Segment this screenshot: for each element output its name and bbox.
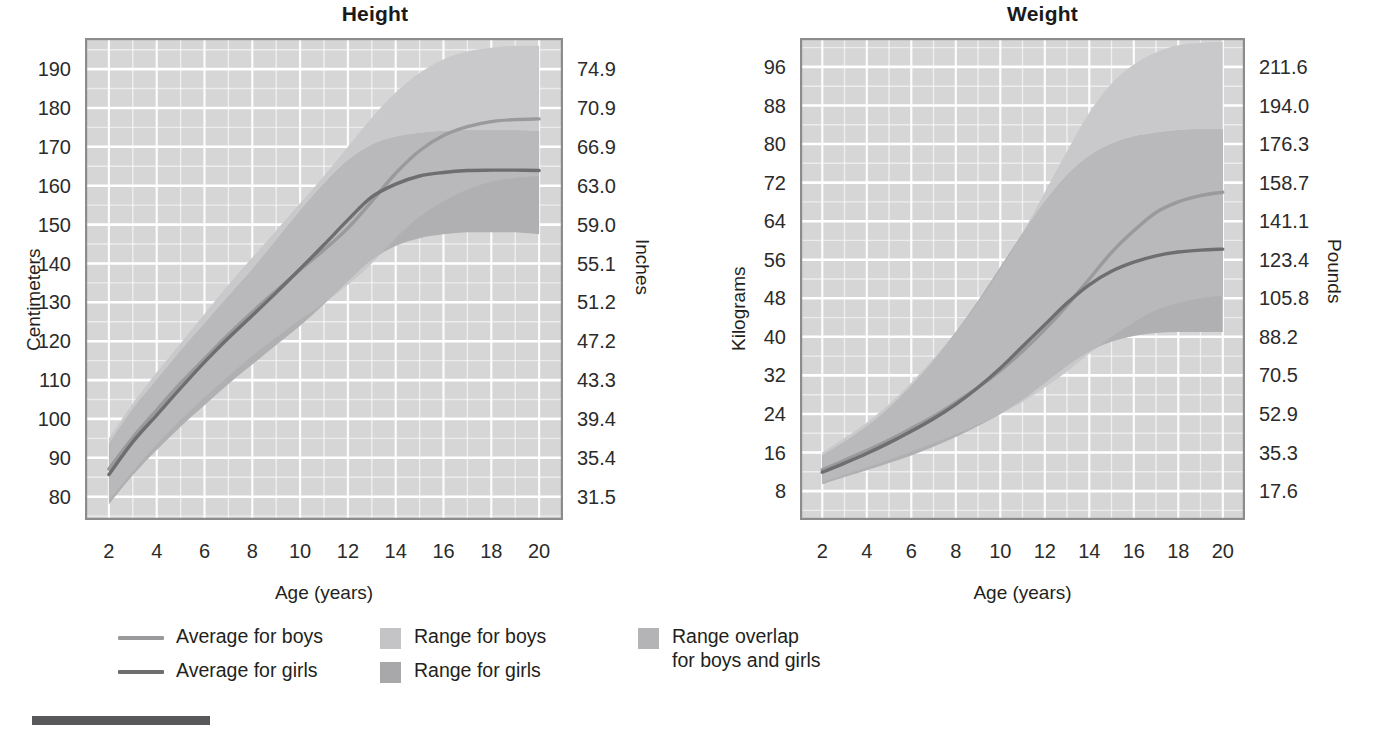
y-tick-label-right: 105.8	[1259, 287, 1309, 309]
y-tick-label-left: 170	[38, 136, 71, 158]
y-tick-label-right: 74.9	[577, 58, 616, 80]
y-tick-label-left: 88	[764, 95, 786, 117]
y-tick-label-right: 55.1	[577, 253, 616, 275]
y-tick-label-right: 31.5	[577, 486, 616, 508]
y-tick-label-left: 110	[39, 369, 71, 391]
x-tick-label: 18	[1167, 540, 1189, 562]
x-tick-label: 10	[989, 540, 1011, 562]
x-tick-label: 8	[950, 540, 961, 562]
legend-color-swatch-range-boys	[380, 628, 401, 649]
y-tick-label-right: 66.9	[577, 136, 616, 158]
x-tick-label: 12	[337, 540, 359, 562]
x-tick-label: 2	[817, 540, 828, 562]
legend-item-range-boys: Range for boys	[380, 624, 546, 658]
y-tick-label-right: 59.0	[577, 214, 616, 236]
x-tick-label: 12	[1034, 540, 1056, 562]
x-tick-label: 16	[1123, 540, 1145, 562]
y-tick-label-left: 80	[764, 133, 786, 155]
weight-plot-svg	[800, 38, 1245, 520]
weight-chart-panel: Weight 817.61635.32452.93270.54088.24810…	[690, 0, 1375, 620]
chart-legend: Average for boys Average for girls Range…	[0, 624, 1000, 704]
x-tick-label: 4	[151, 540, 162, 562]
y-tick-label-left: 16	[764, 442, 786, 464]
y-tick-label-right: 70.9	[577, 97, 616, 119]
x-tick-label: 6	[199, 540, 210, 562]
y-tick-label-left: 72	[764, 172, 786, 194]
legend-color-swatch-range-overlap	[638, 628, 659, 649]
legend-line-swatch-boys	[118, 636, 164, 640]
y-tick-label-right: 123.4	[1259, 249, 1309, 271]
legend-item-average-boys: Average for boys	[118, 624, 323, 658]
x-tick-label: 2	[103, 540, 114, 562]
legend-label-range-girls: Range for girls	[414, 658, 541, 682]
legend-column-overlap: Range overlap for boys and girls	[638, 624, 821, 658]
height-x-axis-label: Age (years)	[85, 582, 563, 604]
y-tick-label-left: 24	[764, 403, 786, 425]
legend-item-range-overlap: Range overlap for boys and girls	[638, 624, 821, 658]
weight-chart-title: Weight	[690, 2, 1375, 26]
y-tick-label-left: 32	[764, 364, 786, 386]
y-tick-label-right: 141.1	[1259, 210, 1309, 232]
legend-label-average-boys: Average for boys	[176, 624, 323, 648]
legend-label-range-overlap: Range overlap for boys and girls	[672, 624, 821, 672]
y-tick-label-left: 8	[775, 480, 786, 502]
legend-label-average-girls: Average for girls	[176, 658, 318, 682]
x-tick-label: 20	[1212, 540, 1234, 562]
x-tick-label: 16	[432, 540, 454, 562]
x-tick-label: 18	[480, 540, 502, 562]
y-tick-label-left: 190	[38, 58, 71, 80]
legend-label-range-boys: Range for boys	[414, 624, 546, 648]
y-tick-label-left: 80	[49, 486, 71, 508]
height-y-axis-label-right: Inches	[631, 239, 653, 295]
height-plot-svg	[85, 38, 563, 520]
y-tick-label-left: 180	[38, 97, 71, 119]
weight-y-axis-label-left: Kilograms	[728, 267, 750, 351]
legend-column-lines: Average for boys Average for girls	[118, 624, 323, 692]
y-tick-label-right: 88.2	[1259, 326, 1298, 348]
y-tick-label-right: 176.3	[1259, 133, 1309, 155]
footer-rule	[32, 716, 210, 725]
y-tick-label-right: 52.9	[1259, 403, 1298, 425]
y-tick-label-left: 150	[38, 214, 71, 236]
y-tick-label-right: 211.6	[1259, 56, 1308, 78]
y-tick-label-right: 158.7	[1259, 172, 1309, 194]
y-tick-label-right: 194.0	[1259, 95, 1309, 117]
x-tick-label: 8	[247, 540, 258, 562]
x-tick-label: 4	[861, 540, 872, 562]
y-tick-label-left: 40	[764, 326, 786, 348]
x-tick-label: 6	[906, 540, 917, 562]
y-tick-label-right: 51.2	[577, 291, 616, 313]
y-tick-label-right: 43.3	[577, 369, 616, 391]
x-tick-label: 14	[1078, 540, 1100, 562]
weight-plot-area: 817.61635.32452.93270.54088.248105.85612…	[800, 38, 1245, 520]
legend-item-range-girls: Range for girls	[380, 658, 546, 692]
y-tick-label-right: 47.2	[577, 330, 616, 352]
y-tick-label-left: 100	[38, 408, 71, 430]
legend-column-ranges: Range for boys Range for girls	[380, 624, 546, 692]
y-tick-label-left: 160	[38, 175, 71, 197]
x-tick-label: 20	[528, 540, 550, 562]
weight-y-axis-label-right: Pounds	[1323, 239, 1345, 303]
x-tick-label: 14	[385, 540, 407, 562]
y-tick-label-left: 96	[764, 56, 786, 78]
height-chart-panel: Height 8031.59035.410039.411043.312047.2…	[0, 0, 690, 620]
height-chart-title: Height	[0, 2, 720, 26]
y-tick-label-right: 39.4	[577, 408, 616, 430]
y-tick-label-left: 64	[764, 210, 786, 232]
weight-x-axis-label: Age (years)	[800, 582, 1245, 604]
height-plot-area: 8031.59035.410039.411043.312047.213051.2…	[85, 38, 563, 520]
y-tick-label-right: 35.3	[1259, 442, 1298, 464]
legend-color-swatch-range-girls	[380, 662, 401, 683]
y-tick-label-right: 63.0	[577, 175, 616, 197]
y-tick-label-right: 70.5	[1259, 364, 1298, 386]
x-tick-label: 10	[289, 540, 311, 562]
y-tick-label-left: 48	[764, 287, 786, 309]
y-tick-label-right: 17.6	[1259, 480, 1298, 502]
height-y-axis-label-left: Centimeters	[23, 249, 45, 351]
legend-item-average-girls: Average for girls	[118, 658, 323, 692]
legend-line-swatch-girls	[118, 670, 164, 674]
y-tick-label-left: 90	[49, 447, 71, 469]
y-tick-label-right: 35.4	[577, 447, 616, 469]
y-tick-label-left: 56	[764, 249, 786, 271]
